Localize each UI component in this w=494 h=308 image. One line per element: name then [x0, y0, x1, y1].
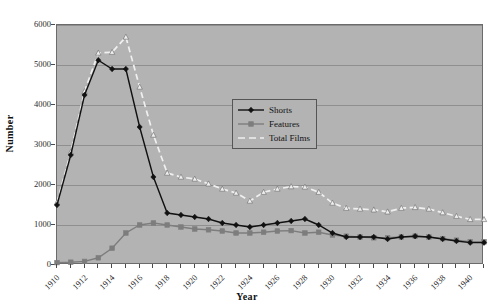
data-point-marker: [261, 230, 266, 235]
data-point-marker: [192, 227, 197, 232]
data-point-marker: [303, 231, 308, 236]
data-point-marker: [233, 222, 238, 228]
data-point-marker: [137, 84, 142, 89]
data-point-marker: [179, 225, 184, 230]
data-point-marker: [164, 170, 169, 175]
data-point-marker: [302, 216, 307, 222]
data-point-marker: [220, 229, 225, 234]
data-point-marker: [316, 222, 321, 228]
data-point-marker: [151, 221, 156, 226]
y-tick-mark: [51, 184, 55, 185]
y-tick-label: 4000: [34, 100, 51, 109]
data-point-marker: [165, 223, 170, 228]
data-point-marker: [151, 174, 156, 180]
data-point-marker: [275, 229, 280, 234]
legend-swatch-icon: [237, 118, 265, 130]
data-point-marker: [137, 223, 142, 228]
series-features: [55, 221, 487, 265]
series-shorts: [54, 57, 486, 245]
y-tick-mark: [51, 144, 55, 145]
legend-swatch-icon: [237, 132, 265, 144]
x-axis-labels: 1910191219141916191819201922192419261928…: [0, 264, 494, 294]
data-point-marker: [275, 220, 280, 226]
legend-label: Total Films: [269, 134, 310, 143]
data-point-marker: [481, 217, 486, 222]
legend-item-total-films[interactable]: Total Films: [237, 131, 310, 145]
y-tick-mark: [51, 224, 55, 225]
y-tick-label: 1000: [34, 220, 51, 229]
data-point-marker: [123, 66, 128, 72]
data-point-marker: [206, 216, 211, 222]
data-point-marker: [316, 189, 321, 194]
legend-label: Shorts: [269, 106, 292, 115]
data-point-marker: [206, 228, 211, 233]
legend-label: Features: [269, 120, 300, 129]
data-point-marker: [124, 231, 129, 236]
data-point-marker: [248, 107, 253, 113]
data-point-marker: [247, 224, 252, 230]
y-tick-label: 6000: [34, 20, 51, 29]
data-point-marker: [289, 228, 294, 233]
data-point-marker: [151, 132, 156, 137]
data-point-marker: [249, 122, 254, 127]
x-axis-title: Year: [0, 291, 494, 302]
data-point-marker: [82, 259, 87, 264]
chart-root: 0100020003000400050006000 Number 1910191…: [0, 0, 494, 308]
y-tick-mark: [51, 104, 55, 105]
y-axis-title: Number: [4, 104, 15, 164]
data-point-marker: [96, 256, 101, 261]
legend-swatch-icon: [237, 104, 265, 116]
y-tick-label: 2000: [34, 180, 51, 189]
y-tick-label: 5000: [34, 60, 51, 69]
data-point-marker: [192, 176, 197, 181]
data-point-marker: [220, 220, 225, 226]
series-line: [57, 223, 484, 263]
data-point-marker: [110, 246, 115, 251]
series-line: [57, 60, 484, 242]
legend-item-features[interactable]: Features: [237, 117, 310, 131]
data-point-marker: [248, 231, 253, 236]
data-point-marker: [261, 222, 266, 228]
y-tick-mark: [51, 64, 55, 65]
legend: ShortsFeaturesTotal Films: [232, 99, 317, 149]
data-point-marker: [234, 231, 239, 236]
data-point-marker: [123, 34, 128, 39]
data-point-marker: [137, 124, 142, 130]
data-point-marker: [316, 230, 321, 235]
data-point-marker: [178, 212, 183, 218]
data-point-marker: [165, 210, 170, 216]
data-point-marker: [192, 214, 197, 220]
y-tick-label: 3000: [34, 140, 51, 149]
data-point-marker: [289, 218, 294, 224]
legend-item-shorts[interactable]: Shorts: [237, 103, 310, 117]
data-point-marker: [220, 186, 225, 191]
y-tick-mark: [51, 24, 55, 25]
